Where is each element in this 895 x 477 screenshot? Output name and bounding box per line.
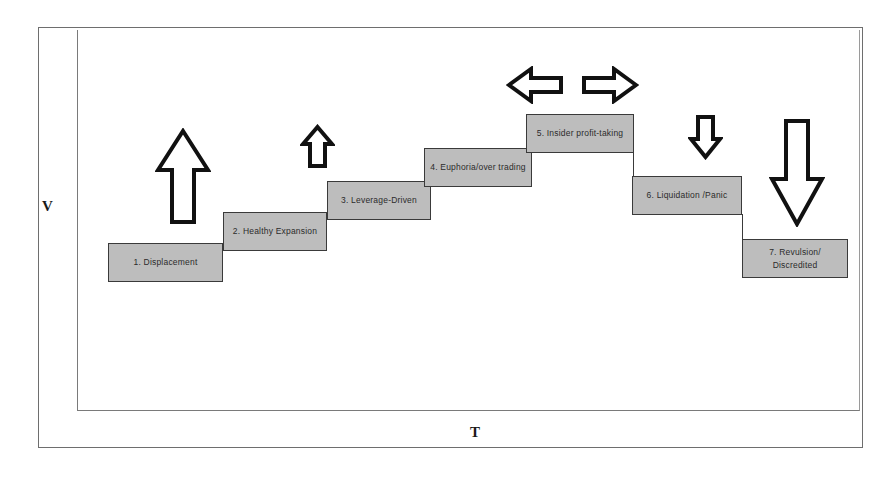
step-box-6[interactable]: 6. Liquidation /Panic [632, 176, 742, 215]
arrow-up-large-icon [155, 128, 211, 225]
arrow-down-large-icon [769, 117, 825, 227]
x-axis-label: T [470, 424, 480, 441]
y-axis-label: V [42, 198, 53, 215]
step-box-3[interactable]: 3. Leverage-Driven [327, 181, 431, 220]
step-box-7[interactable]: 7. Revulsion/ Discredited [742, 239, 848, 278]
step-box-2[interactable]: 2. Healthy Expansion [223, 212, 327, 251]
step-riser-6-7 [742, 214, 743, 240]
step-riser-5-6 [633, 152, 634, 177]
arrow-left-icon [506, 66, 564, 104]
step-box-5[interactable]: 5. Insider profit-taking [526, 114, 634, 153]
step-box-1[interactable]: 1. Displacement [108, 243, 223, 282]
arrow-up-small-icon [300, 124, 335, 169]
step-box-4[interactable]: 4. Euphoria/over trading [424, 148, 532, 187]
arrow-right-icon [581, 66, 639, 104]
diagram-canvas: V T 1. Displacement 2. Healthy Expansion… [0, 0, 895, 477]
arrow-down-small-icon [688, 113, 723, 160]
